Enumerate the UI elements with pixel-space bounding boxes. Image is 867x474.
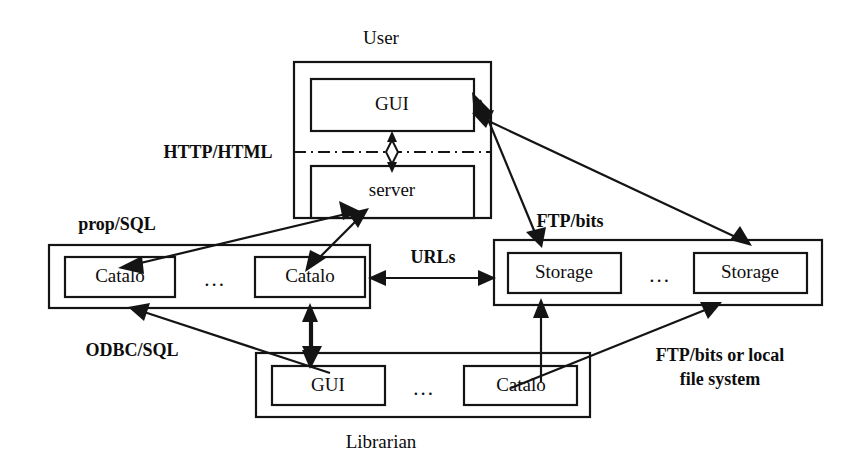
edge-label-ftp-bits: FTP/bits (536, 211, 603, 231)
catalog-tier-ellipsis: ... (204, 267, 226, 291)
storage-tier-ellipsis: ... (649, 263, 671, 287)
edge-label-odbc-sql: ODBC/SQL (85, 340, 178, 360)
group-librarian-title: Librarian (346, 431, 417, 452)
user-gui-label: GUI (375, 93, 409, 114)
group-user-title: User (363, 27, 400, 48)
group-storage-tier: Storage ... Storage (494, 240, 822, 305)
edge-gui-storage-right (472, 110, 752, 246)
architecture-diagram: User GUI server Catalo ... Catalo (0, 0, 867, 474)
edge-label-ftp-bits-local-line2: file system (680, 369, 760, 389)
edge-odbc-sql (128, 303, 330, 373)
edge-label-http-html: HTTP/HTML (163, 142, 272, 162)
edge-label-ftp-bits-local-line1: FTP/bits or local (656, 345, 785, 365)
librarian-ellipsis: ... (413, 376, 435, 400)
edge-urls (368, 270, 496, 286)
group-user: User GUI server (294, 27, 491, 218)
user-server-label: server (369, 179, 416, 200)
diagram-canvas: User GUI server Catalo ... Catalo (0, 0, 867, 474)
edge-label-urls: URLs (410, 247, 455, 267)
storage-right-label: Storage (721, 261, 779, 282)
edge-label-prop-sql: prop/SQL (78, 214, 156, 234)
storage-left-label: Storage (535, 261, 593, 282)
librarian-gui-label: GUI (311, 374, 345, 395)
